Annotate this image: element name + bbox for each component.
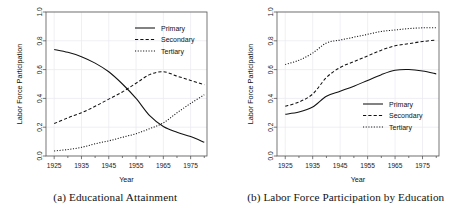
series-line-tertiary bbox=[54, 95, 204, 151]
figure-two-panel: 192519351945195519651975Year0.00.20.40.6… bbox=[0, 0, 461, 220]
x-tick-label: 1975 bbox=[183, 162, 198, 169]
legend-label-secondary: Secondary bbox=[161, 36, 195, 44]
chart-educational-attainment: 192519351945195519651975Year0.00.20.40.6… bbox=[0, 0, 230, 192]
y-tick-label: 0.6 bbox=[267, 65, 274, 74]
x-axis-title: Year bbox=[350, 175, 365, 184]
panel-b: 192519351945195519651975Year0.00.20.40.6… bbox=[231, 0, 461, 220]
y-tick-label: 0.8 bbox=[36, 36, 43, 45]
chart-labor-force-participation: 192519351945195519651975Year0.00.20.40.6… bbox=[231, 0, 461, 192]
y-tick-label: 1.0 bbox=[36, 7, 43, 16]
y-tick-label: 0.8 bbox=[267, 36, 274, 45]
y-tick-label: 0.6 bbox=[36, 65, 43, 74]
y-tick-label: 0.2 bbox=[267, 122, 274, 131]
legend-label-tertiary: Tertiary bbox=[161, 48, 184, 56]
x-tick-label: 1935 bbox=[305, 162, 320, 169]
x-axis: 192519351945195519651975Year bbox=[277, 156, 435, 184]
y-tick-label: 0.0 bbox=[267, 151, 274, 160]
y-tick-label: 0.2 bbox=[36, 122, 43, 131]
plot-area-a: 192519351945195519651975Year0.00.20.40.6… bbox=[0, 0, 231, 192]
series-line-secondary bbox=[54, 72, 204, 124]
y-axis-title: Labor Force Participation bbox=[246, 44, 255, 124]
series-group bbox=[54, 49, 204, 151]
panel-a: 192519351945195519651975Year0.00.20.40.6… bbox=[0, 0, 231, 220]
x-tick-label: 1955 bbox=[360, 162, 375, 169]
x-axis-title: Year bbox=[119, 175, 134, 184]
x-tick-label: 1945 bbox=[101, 162, 116, 169]
chart-root: 192519351945195519651975Year0.00.20.40.6… bbox=[246, 7, 439, 184]
x-tick-label: 1965 bbox=[156, 162, 171, 169]
series-line-primary bbox=[54, 49, 204, 142]
y-axis: 0.00.20.40.60.81.0Labor Force Participat… bbox=[246, 7, 277, 160]
x-tick-label: 1945 bbox=[332, 162, 347, 169]
legend-label-primary: Primary bbox=[161, 25, 186, 33]
x-tick-label: 1935 bbox=[74, 162, 89, 169]
legend-label-tertiary: Tertiary bbox=[389, 124, 412, 132]
plot-area-b: 192519351945195519651975Year0.00.20.40.6… bbox=[231, 0, 461, 192]
y-tick-label: 0.4 bbox=[36, 93, 43, 102]
chart-root: 192519351945195519651975Year0.00.20.40.6… bbox=[15, 7, 207, 184]
x-tick-label: 1955 bbox=[129, 162, 144, 169]
x-tick-label: 1925 bbox=[47, 162, 62, 169]
caption-b: (b) Labor Force Participation by Educati… bbox=[231, 191, 461, 203]
x-tick-label: 1975 bbox=[415, 162, 430, 169]
series-line-primary bbox=[285, 70, 436, 115]
legend: PrimarySecondaryTertiary bbox=[135, 25, 195, 56]
y-axis-title: Labor Force Participation bbox=[15, 44, 24, 124]
y-tick-label: 0.4 bbox=[267, 93, 274, 102]
x-tick-label: 1965 bbox=[387, 162, 402, 169]
caption-a: (a) Educational Attainment bbox=[0, 191, 231, 203]
x-axis: 192519351945195519651975Year bbox=[47, 156, 204, 184]
y-tick-label: 0.0 bbox=[36, 151, 43, 160]
y-tick-label: 1.0 bbox=[267, 7, 274, 16]
legend-label-secondary: Secondary bbox=[389, 112, 423, 120]
series-line-secondary bbox=[285, 40, 436, 106]
legend-label-primary: Primary bbox=[389, 101, 414, 109]
x-tick-label: 1925 bbox=[277, 162, 292, 169]
y-axis: 0.00.20.40.60.81.0Labor Force Participat… bbox=[15, 7, 46, 160]
